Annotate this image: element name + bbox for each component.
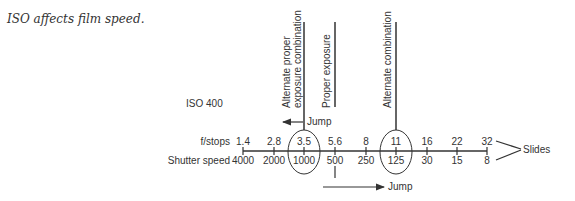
shutter-value: 125 <box>388 155 405 166</box>
shutter-value: 30 <box>421 155 433 166</box>
iso-label: ISO 400 <box>186 98 223 109</box>
fstop-value: 1.4 <box>236 136 250 147</box>
fstop-value: 8 <box>363 136 369 147</box>
alt-proper-label-line2: exposure combination <box>292 10 303 108</box>
shutter-value: 1000 <box>293 155 316 166</box>
fstop-value: 16 <box>421 136 433 147</box>
shutter-values: 4000 2000 1000 500 250 125 30 15 8 <box>232 155 490 166</box>
shutter-value: 15 <box>451 155 463 166</box>
proper-exposure-label: Proper exposure <box>321 34 332 108</box>
slides-bracket-top <box>496 141 521 149</box>
fstop-value: 5.6 <box>328 136 342 147</box>
fstop-value: 11 <box>391 136 402 147</box>
jump-top-label: Jump <box>307 116 332 127</box>
exposure-diagram: ISO 400 f/stops Shutter speed 1.4 2.8 3.… <box>0 0 575 201</box>
shutter-value: 2000 <box>263 155 286 166</box>
shutter-value: 250 <box>358 155 375 166</box>
fstop-value: 3.5 <box>297 136 311 147</box>
slides-bracket-bottom <box>496 150 521 160</box>
fstop-value: 22 <box>451 136 463 147</box>
fstop-value: 2.8 <box>267 136 281 147</box>
alt-proper-label-line1: Alternate proper <box>281 36 292 108</box>
fstop-value: 32 <box>481 136 493 147</box>
alternate-combination-label: Alternate combination <box>382 11 393 108</box>
fstops-label: f/stops <box>201 136 230 147</box>
shutter-speed-label: Shutter speed <box>168 155 230 166</box>
fstop-values: 1.4 2.8 3.5 5.6 8 11 16 22 32 <box>236 136 493 147</box>
shutter-value: 8 <box>484 155 490 166</box>
shutter-value: 500 <box>327 155 344 166</box>
jump-bottom-label: Jump <box>388 181 413 192</box>
slides-label: Slides <box>523 144 550 155</box>
shutter-value: 4000 <box>232 155 255 166</box>
